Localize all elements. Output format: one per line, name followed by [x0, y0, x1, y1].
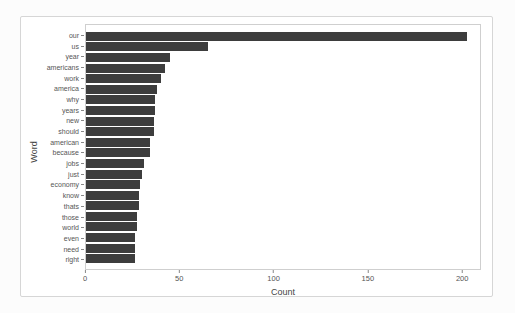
y-axis-label: new — [66, 117, 79, 124]
bar-row — [86, 201, 480, 212]
x-axis-tick: 150 — [362, 270, 375, 283]
y-axis-tick-mark — [81, 78, 84, 79]
x-axis-tick-label: 50 — [175, 275, 183, 283]
bar-row — [86, 169, 480, 180]
y-axis-label-row: american — [21, 137, 84, 148]
y-axis-tick-mark — [81, 88, 84, 89]
y-axis-label-row: years — [21, 105, 84, 116]
bar-row — [86, 148, 480, 159]
y-axis-label-row: need — [21, 244, 84, 255]
y-axis-label: work — [64, 75, 79, 82]
bar-row — [86, 222, 480, 233]
bar-year — [86, 53, 170, 62]
bar-row — [86, 137, 480, 148]
y-axis-tick-mark — [81, 142, 84, 143]
x-axis-tick: 200 — [456, 270, 469, 283]
x-axis-tick-label: 200 — [456, 275, 469, 283]
y-axis-label-row: because — [21, 148, 84, 159]
y-axis-label: years — [62, 107, 79, 114]
bar-row — [86, 95, 480, 106]
bar-know — [86, 191, 139, 200]
bar-row — [86, 232, 480, 243]
y-axis-tick-mark — [81, 163, 84, 164]
y-axis-labels: ourusyearamericansworkamericawhyyearsnew… — [21, 24, 84, 270]
bar-row — [86, 105, 480, 116]
x-axis-title: Count — [85, 287, 481, 297]
y-axis-label-row: even — [21, 233, 84, 244]
y-axis-tick-mark — [81, 174, 84, 175]
bar-thats — [86, 201, 139, 210]
y-axis-label: right — [65, 256, 79, 263]
y-axis-label-row: new — [21, 116, 84, 127]
x-axis-tick-mark — [84, 270, 85, 273]
y-axis-tick-mark — [81, 35, 84, 36]
y-axis-tick-mark — [81, 217, 84, 218]
x-axis-tick-mark — [367, 270, 368, 273]
y-axis-label-row: year — [21, 51, 84, 62]
y-axis-tick-mark — [81, 259, 84, 260]
y-axis-label-row: america — [21, 83, 84, 94]
y-axis-label: why — [67, 96, 79, 103]
bar-row — [86, 179, 480, 190]
bar-those — [86, 212, 137, 221]
y-axis-tick-mark — [81, 152, 84, 153]
y-axis-label-row: know — [21, 190, 84, 201]
bar-row — [86, 63, 480, 74]
bar-row — [86, 31, 480, 42]
bar-row — [86, 73, 480, 84]
y-axis-label-row: jobs — [21, 158, 84, 169]
y-axis-label: even — [64, 235, 79, 242]
bar-jobs — [86, 159, 144, 168]
bar-new — [86, 117, 154, 126]
y-axis-tick-mark — [81, 46, 84, 47]
y-axis-tick-mark — [81, 238, 84, 239]
y-axis-label-row: work — [21, 73, 84, 84]
plot-panel — [85, 24, 481, 270]
bar-row — [86, 243, 480, 254]
bar-americans — [86, 64, 165, 73]
bar-row — [86, 52, 480, 63]
y-axis-label: thats — [64, 203, 79, 210]
y-axis-label-row: just — [21, 169, 84, 180]
x-axis-tick-mark — [462, 270, 463, 273]
x-axis-tick-label: 0 — [83, 275, 87, 283]
x-axis-tick: 0 — [83, 270, 87, 283]
y-axis-label-row: americans — [21, 62, 84, 73]
y-axis-label: america — [54, 85, 79, 92]
y-axis-label: us — [72, 43, 79, 50]
y-axis-label-row: those — [21, 212, 84, 223]
y-axis-tick-mark — [81, 110, 84, 111]
y-axis-label-row: should — [21, 126, 84, 137]
bar-economy — [86, 180, 140, 189]
bar-row — [86, 211, 480, 222]
x-axis-tick: 100 — [267, 270, 280, 283]
bar-row — [86, 42, 480, 53]
y-axis-label: year — [65, 53, 79, 60]
y-axis-tick-mark — [81, 184, 84, 185]
y-axis-label: economy — [51, 181, 79, 188]
y-axis-tick-mark — [81, 120, 84, 121]
bar-just — [86, 170, 142, 179]
y-axis-label: jobs — [66, 160, 79, 167]
bar-row — [86, 158, 480, 169]
bar-row — [86, 190, 480, 201]
y-axis-label: should — [58, 128, 79, 135]
y-axis-tick-mark — [81, 249, 84, 250]
y-axis-tick-mark — [81, 227, 84, 228]
y-axis-label: need — [63, 246, 79, 253]
x-axis-tick-label: 100 — [267, 275, 280, 283]
bar-even — [86, 233, 135, 242]
y-axis-label: those — [62, 214, 79, 221]
y-axis-tick-mark — [81, 131, 84, 132]
bar-us — [86, 42, 208, 51]
bars-container — [86, 25, 480, 269]
bar-america — [86, 85, 157, 94]
bar-row — [86, 253, 480, 264]
bar-row — [86, 116, 480, 127]
y-axis-label: know — [63, 192, 79, 199]
y-axis-label-row: thats — [21, 201, 84, 212]
y-axis-tick-mark — [81, 67, 84, 68]
bar-american — [86, 138, 150, 147]
bar-because — [86, 148, 150, 157]
x-axis-tick-mark — [273, 270, 274, 273]
